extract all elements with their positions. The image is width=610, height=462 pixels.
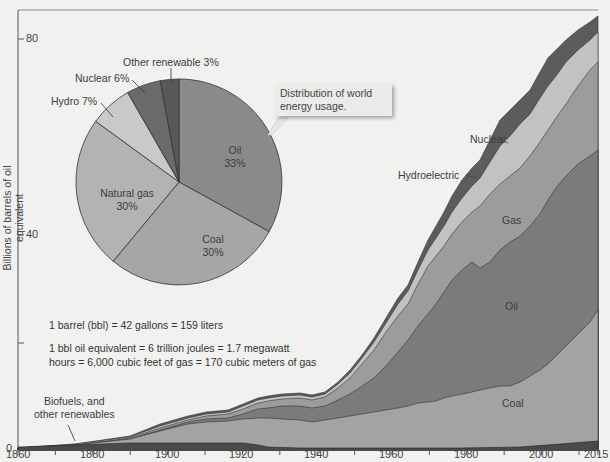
y-tick-40: 40	[26, 228, 38, 240]
area-label-hydroelectric: Hydroelectric	[398, 169, 459, 182]
pie-coal-pct: 30%	[193, 246, 233, 259]
pie-label-natural-gas: Natural gas 30%	[92, 187, 162, 212]
pie-label-nuclear: Nuclear 6%	[75, 72, 129, 85]
stacked-area-chart	[0, 0, 610, 462]
pie-label-coal: Coal 30%	[193, 233, 233, 258]
area-label-nuclear: Nuclear	[470, 133, 506, 146]
pie-coal-name: Coal	[193, 233, 233, 246]
biofuels-label-line2: other renewables	[34, 408, 115, 421]
pie-label-hydro: Hydro 7%	[51, 95, 97, 108]
x-tick-1940: 1940	[304, 448, 328, 460]
pie-label-other-renewable: Other renewable 3%	[123, 56, 219, 69]
x-tick-1900: 1900	[155, 448, 179, 460]
x-tick-2000: 2000	[529, 448, 553, 460]
pie-callout: Distribution of world energy usage.	[276, 84, 392, 116]
pie-oil-pct: 33%	[215, 157, 255, 170]
y-tick-80: 80	[26, 32, 38, 44]
note-equivalent: 1 bbl oil equivalent = 6 trillion joules…	[49, 342, 316, 369]
area-label-oil: Oil	[505, 300, 518, 313]
x-tick-1920: 1920	[229, 448, 253, 460]
pie-gas-pct: 30%	[92, 200, 162, 213]
area-label-coal: Coal	[502, 397, 524, 410]
energy-chart-figure: Billions of barrels of oil equivalent 80…	[0, 0, 610, 462]
biofuels-leader-line	[68, 425, 75, 441]
area-label-biofuels: Biofuels, and other renewables	[34, 395, 115, 420]
note-equivalent-line2: hours = 6,000 cubic feet of gas = 170 cu…	[49, 356, 316, 370]
note-equivalent-line1: 1 bbl oil equivalent = 6 trillion joules…	[49, 342, 316, 356]
biofuels-label-line1: Biofuels, and	[34, 395, 115, 408]
area-label-gas: Gas	[502, 214, 521, 227]
x-tick-1880: 1880	[80, 448, 104, 460]
x-tick-1980: 1980	[454, 448, 478, 460]
x-tick-1860: 1860	[6, 448, 30, 460]
pie-oil-name: Oil	[215, 144, 255, 157]
x-tick-2015: 2015	[584, 448, 608, 460]
pie-gas-name: Natural gas	[92, 187, 162, 200]
note-barrel: 1 barrel (bbl) = 42 gallons = 159 liters	[49, 319, 223, 333]
pie-label-oil: Oil 33%	[215, 144, 255, 169]
callout-pointer	[268, 118, 288, 135]
x-tick-1960: 1960	[379, 448, 403, 460]
y-axis-label: Billions of barrels of oil equivalent	[1, 143, 25, 293]
